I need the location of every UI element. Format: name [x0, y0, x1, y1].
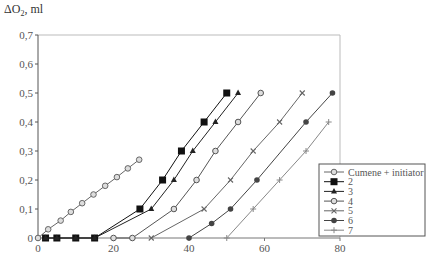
y-tick-label: 0,2: [19, 174, 33, 186]
y-tick-label: 0: [28, 232, 34, 244]
x-tick-label: 0: [35, 242, 41, 254]
legend-label: Cumene + initiator: [348, 167, 424, 178]
y-tick-label: 0,7: [19, 29, 33, 41]
x-tick-label: 80: [335, 242, 347, 254]
legend: Cumene + initiator234567: [319, 164, 425, 236]
y-tick-label: 0,6: [19, 58, 33, 70]
y-axis-label: ΔO2, ml: [4, 2, 43, 18]
series-2: [42, 90, 230, 242]
chart-area: ΔO2, ml 00,10,20,30,40,50,60,7020406080C…: [0, 0, 426, 259]
series-6: [186, 90, 335, 241]
legend-label: 7: [348, 225, 353, 236]
y-tick-label: 0,3: [19, 145, 33, 157]
series-7: [224, 119, 332, 241]
x-tick-label: 40: [184, 242, 196, 254]
plot-svg: 00,10,20,30,40,50,60,7020406080Cumene + …: [0, 0, 426, 259]
x-tick-label: 20: [108, 242, 120, 254]
series-1: [35, 157, 142, 241]
x-tick-label: 60: [259, 242, 271, 254]
y-tick-label: 0,4: [19, 116, 33, 128]
y-tick-label: 0,5: [19, 87, 33, 99]
y-tick-label: 0,1: [19, 203, 33, 215]
